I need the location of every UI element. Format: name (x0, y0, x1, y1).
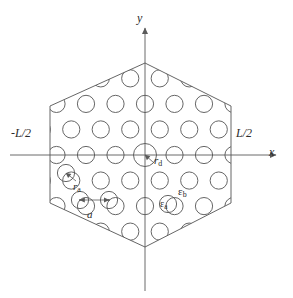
defect-radius-subscript: d (158, 159, 162, 168)
air-hole (151, 223, 168, 240)
air-hole (166, 249, 183, 266)
air-hole (210, 121, 227, 138)
air-hole (210, 172, 227, 189)
air-hole (181, 70, 198, 87)
air-hole (77, 95, 94, 112)
air-hole (195, 249, 212, 266)
defect-radius-arrow (145, 155, 154, 163)
air-hole (33, 121, 50, 138)
air-hole (166, 95, 183, 112)
air-hole (240, 172, 257, 189)
defect-radius-label: rd (154, 155, 162, 168)
air-hole (240, 223, 257, 240)
air-hole (107, 95, 124, 112)
air-hole (122, 172, 139, 189)
air-hole (33, 223, 50, 240)
hole-radius-label: ra (73, 181, 81, 194)
air-hole (48, 44, 65, 61)
x-axis-label: x (269, 146, 274, 158)
air-hole (33, 172, 50, 189)
air-hole (225, 198, 242, 215)
air-hole (107, 44, 124, 61)
lattice-figure-svg (0, 0, 293, 298)
air-hole (210, 70, 227, 87)
air-hole (240, 70, 257, 87)
air-hole (48, 249, 65, 266)
air-hole (195, 44, 212, 61)
permittivity-hole-subscript: a (164, 203, 167, 211)
air-hole (92, 172, 109, 189)
air-hole (77, 249, 94, 266)
lattice-constant-label: a (87, 209, 93, 220)
air-hole (63, 223, 80, 240)
air-hole (195, 95, 212, 112)
air-hole (122, 121, 139, 138)
air-hole (225, 44, 242, 61)
air-hole (63, 70, 80, 87)
air-hole (225, 249, 242, 266)
air-hole (63, 121, 80, 138)
air-hole (92, 121, 109, 138)
air-hole (195, 198, 212, 215)
air-hole (166, 44, 183, 61)
air-hole (151, 70, 168, 87)
air-hole (181, 121, 198, 138)
air-hole (77, 44, 94, 61)
air-hole (48, 95, 65, 112)
y-axis-label: y (137, 12, 142, 24)
air-hole (151, 121, 168, 138)
air-hole (166, 198, 183, 215)
left-boundary-label: -L/2 (11, 127, 31, 139)
hole-radius-subscript: a (77, 185, 81, 194)
air-hole (210, 223, 227, 240)
permittivity-background-label: εb (178, 186, 187, 199)
air-hole (181, 223, 198, 240)
air-hole (107, 249, 124, 266)
figure-container: x y -L/2 L/2 rd ra a εa εb (0, 0, 293, 298)
air-hole (151, 172, 168, 189)
air-hole (33, 70, 50, 87)
air-hole (92, 70, 109, 87)
air-hole (92, 223, 109, 240)
permittivity-hole-label: εa (160, 199, 167, 211)
right-boundary-label: L/2 (236, 127, 252, 139)
permittivity-background-subscript: b (183, 190, 187, 199)
